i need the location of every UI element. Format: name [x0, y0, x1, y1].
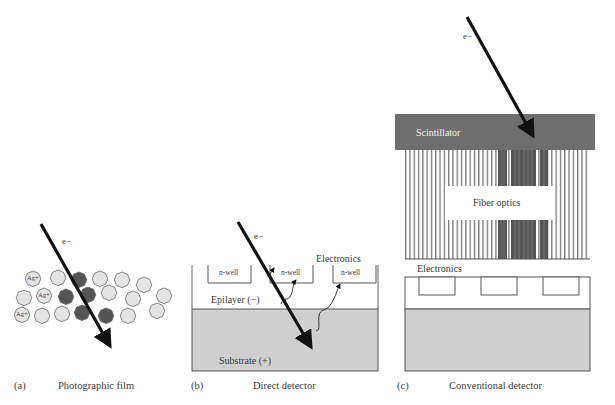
scintillator-label: Scintillator [416, 127, 460, 138]
figure-graphics [0, 0, 615, 405]
grain [54, 306, 70, 322]
n-well-label-1: n-well [219, 268, 238, 277]
electron-label: e− [62, 236, 71, 246]
panel-c-conventional-detector [395, 17, 595, 371]
panel-c-letter: (c) [397, 380, 409, 391]
grain [136, 277, 152, 293]
panel-a-film [14, 224, 172, 346]
fiber-optics-label: Fiber optics [473, 197, 521, 208]
grain [149, 303, 165, 319]
grain [34, 308, 50, 324]
grain [120, 308, 136, 324]
grain [125, 291, 141, 307]
pixel-2 [481, 277, 517, 295]
electron-label: e− [463, 31, 472, 41]
electronics-label: Electronics [316, 253, 361, 264]
substrate [405, 309, 590, 371]
grain [101, 285, 117, 301]
panel-c-caption: Conventional detector [449, 380, 542, 391]
n-well-label-2: n-well [281, 268, 300, 277]
panel-b-caption: Direct detector [253, 380, 316, 391]
grain [114, 272, 130, 288]
grain-exposed [58, 289, 74, 305]
pixel-3 [543, 277, 579, 295]
grain-ag-label: Ag+ [38, 291, 50, 298]
grain-ag-label: Ag+ [27, 274, 39, 281]
electron-label: e− [254, 231, 263, 241]
grain-ag-label: Ag+ [16, 310, 28, 317]
grain [50, 270, 66, 286]
detector-comparison-figure: e− Ag+ Ag+ Ag+ (a) Photographic film e− … [0, 0, 615, 405]
epilayer-label: Epilayer (−) [211, 294, 260, 305]
grain [92, 271, 108, 287]
grain-exposed [98, 308, 114, 324]
grain [156, 288, 172, 304]
panel-a-letter: (a) [14, 380, 26, 391]
grain [16, 290, 32, 306]
electronics-label: Electronics [417, 263, 462, 274]
substrate-label: Substrate (+) [219, 355, 271, 366]
pixel-1 [419, 277, 455, 295]
n-well-label-3: n-well [341, 268, 360, 277]
panel-b-letter: (b) [191, 380, 203, 391]
panel-a-caption: Photographic film [58, 380, 134, 391]
